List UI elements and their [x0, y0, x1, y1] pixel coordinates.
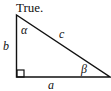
side-c-label: c — [59, 28, 64, 40]
side-b-label: b — [3, 40, 9, 52]
triangle-outline — [17, 15, 111, 77]
right-angle-marker — [17, 70, 24, 77]
angle-beta-label: β — [81, 63, 87, 75]
side-a-label: a — [48, 79, 54, 91]
angle-alpha-label: α — [21, 24, 27, 36]
right-triangle-diagram — [0, 0, 111, 91]
